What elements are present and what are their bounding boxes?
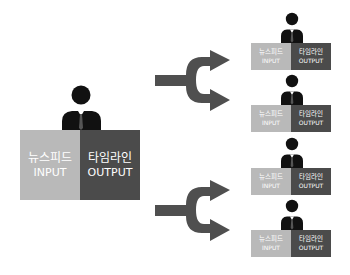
input-label-ko: 뉴스피드 bbox=[259, 111, 283, 119]
output-label-ko: 타임라인 bbox=[88, 151, 132, 165]
person-icon bbox=[60, 85, 104, 131]
person-icon bbox=[280, 74, 304, 105]
input-label-en: INPUT bbox=[262, 57, 280, 64]
input-label-en: INPUT bbox=[262, 244, 280, 251]
input-label-ko: 뉴스피드 bbox=[259, 49, 283, 57]
person-icon bbox=[280, 12, 304, 43]
output-label-ko: 타임라인 bbox=[299, 49, 323, 57]
target-account-box: 뉴스피드 INPUT 타임라인 OUTPUT bbox=[251, 43, 331, 70]
timeline-output-block: 타임라인 OUTPUT bbox=[291, 105, 331, 132]
timeline-output-block: 타임라인 OUTPUT bbox=[291, 168, 331, 195]
newsfeed-input-block: 뉴스피드 INPUT bbox=[251, 43, 291, 70]
input-label-en: INPUT bbox=[262, 119, 280, 126]
output-label-en: OUTPUT bbox=[299, 244, 323, 251]
timeline-output-block: 타임라인 OUTPUT bbox=[291, 43, 331, 70]
newsfeed-input-block: 뉴스피드 INPUT bbox=[251, 168, 291, 195]
fork-arrow-icon bbox=[150, 45, 240, 120]
target-account-box: 뉴스피드 INPUT 타임라인 OUTPUT bbox=[251, 230, 331, 257]
output-label-en: OUTPUT bbox=[299, 182, 323, 189]
input-label-en: INPUT bbox=[34, 166, 67, 179]
person-icon bbox=[280, 137, 304, 168]
source-account-box: 뉴스피드 INPUT 타임라인 OUTPUT bbox=[20, 130, 140, 200]
input-label-en: INPUT bbox=[262, 182, 280, 189]
input-label-ko: 뉴스피드 bbox=[259, 174, 283, 182]
output-label-ko: 타임라인 bbox=[299, 111, 323, 119]
target-account-box: 뉴스피드 INPUT 타임라인 OUTPUT bbox=[251, 105, 331, 132]
input-label-ko: 뉴스피드 bbox=[28, 151, 72, 165]
output-label-ko: 타임라인 bbox=[299, 236, 323, 244]
timeline-output-block: 타임라인 OUTPUT bbox=[291, 230, 331, 257]
newsfeed-input-block: 뉴스피드 INPUT bbox=[251, 105, 291, 132]
person-icon bbox=[280, 199, 304, 230]
output-label-en: OUTPUT bbox=[88, 166, 133, 179]
output-label-en: OUTPUT bbox=[299, 119, 323, 126]
input-label-ko: 뉴스피드 bbox=[259, 236, 283, 244]
newsfeed-input-block: 뉴스피드 INPUT bbox=[20, 130, 80, 200]
target-account-box: 뉴스피드 INPUT 타임라인 OUTPUT bbox=[251, 168, 331, 195]
output-label-ko: 타임라인 bbox=[299, 174, 323, 182]
fork-arrow-icon bbox=[150, 175, 240, 250]
newsfeed-input-block: 뉴스피드 INPUT bbox=[251, 230, 291, 257]
output-label-en: OUTPUT bbox=[299, 57, 323, 64]
timeline-output-block: 타임라인 OUTPUT bbox=[80, 130, 140, 200]
